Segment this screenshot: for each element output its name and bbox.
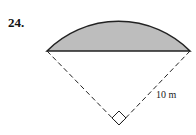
shaded-segment (47, 21, 190, 51)
sector-diagram: 10 m (0, 0, 196, 135)
right-angle-marker (112, 111, 126, 125)
radius-right (119, 51, 190, 125)
radius-label: 10 m (156, 89, 177, 100)
radius-left (47, 51, 119, 125)
